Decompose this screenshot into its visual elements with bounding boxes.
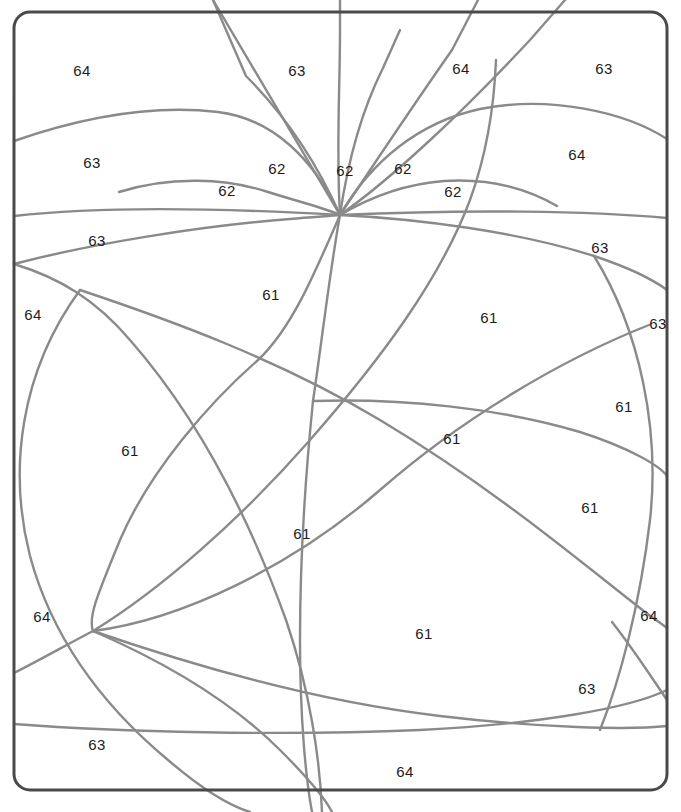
region-label-61-16: 61 [480, 310, 498, 325]
region-label-62-10: 62 [444, 184, 462, 199]
apex-ray-center-left [338, 0, 340, 215]
curve-center-junction-down [300, 401, 313, 812]
region-label-63-26: 63 [88, 737, 106, 752]
region-label-63-14: 63 [649, 316, 667, 331]
region-label-63-25: 63 [578, 681, 596, 696]
region-label-61-18: 61 [443, 431, 461, 446]
region-label-61-24: 61 [415, 626, 433, 641]
region-label-61-21: 61 [293, 526, 311, 541]
region-label-63-4: 63 [83, 155, 101, 170]
region-label-63-3: 63 [595, 61, 613, 76]
region-label-63-12: 63 [591, 240, 609, 255]
region-label-61-20: 61 [581, 500, 599, 515]
curve-from-apex-down-left [92, 215, 340, 631]
curve-up-right-from-junction [93, 60, 496, 631]
region-label-62-7: 62 [394, 161, 412, 176]
apex-ray-center-right [340, 30, 400, 215]
region-label-64-22: 64 [33, 609, 51, 624]
band-top-flat-right [340, 211, 667, 218]
region-label-61-15: 61 [262, 287, 280, 302]
curve-lower-left-fan-a [93, 631, 332, 812]
band-top-flat-left [14, 209, 340, 216]
diagram-canvas: 6463646363626262646262636364636161616161… [0, 0, 681, 812]
region-label-62-9: 62 [218, 183, 236, 198]
region-label-63-1: 63 [288, 63, 306, 78]
region-label-61-19: 61 [121, 443, 139, 458]
region-label-62-6: 62 [336, 163, 354, 178]
region-label-64-27: 64 [396, 764, 414, 779]
curve-diag-nw-to-se [80, 290, 649, 615]
region-label-61-17: 61 [615, 399, 633, 414]
curve-left-descend-outer [14, 264, 322, 812]
big-arc-right-63 [340, 215, 667, 290]
region-label-63-11: 63 [88, 233, 106, 248]
region-label-62-5: 62 [268, 161, 286, 176]
region-label-64-2: 64 [452, 61, 470, 76]
curve-apex-to-center-junction [313, 215, 340, 401]
region-label-64-0: 64 [73, 63, 91, 78]
curve-diag-ne-to-sw [93, 325, 649, 631]
region-label-64-13: 64 [24, 307, 42, 322]
region-label-64-8: 64 [568, 147, 586, 162]
region-label-64-23: 64 [640, 608, 658, 623]
curve-right-junction-to-corner [612, 622, 667, 700]
curve-group [14, 0, 667, 812]
arc-right-outer-64 [340, 104, 667, 215]
left-circle-big [20, 290, 250, 812]
big-arc-left-63 [14, 215, 340, 264]
